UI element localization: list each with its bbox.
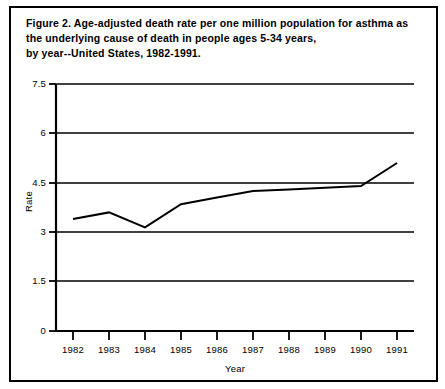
y-tick-label-1_5: 1.5 bbox=[14, 275, 46, 286]
gridlines bbox=[56, 84, 414, 331]
x-tick-label-1987: 1987 bbox=[233, 344, 273, 355]
y-axis-title: Rate bbox=[23, 172, 34, 232]
x-tick-label-1985: 1985 bbox=[161, 344, 201, 355]
y-tick-label-7_5: 7.5 bbox=[14, 78, 46, 89]
plot-area: 7.5 6 4.5 3 1.5 0 1982 1983 1984 1985 19… bbox=[0, 0, 445, 389]
x-axis-title: Year bbox=[56, 363, 414, 374]
x-tick-label-1986: 1986 bbox=[197, 344, 237, 355]
x-tick-label-1984: 1984 bbox=[125, 344, 165, 355]
x-tick-label-1991: 1991 bbox=[377, 344, 417, 355]
figure-container: Figure 2. Age-adjusted death rate per on… bbox=[0, 0, 445, 389]
x-tick-label-1988: 1988 bbox=[269, 344, 309, 355]
y-tick-label-0: 0 bbox=[14, 325, 46, 336]
y-tick-label-6: 6 bbox=[14, 127, 46, 138]
x-tick-label-1989: 1989 bbox=[305, 344, 345, 355]
data-series-line bbox=[73, 163, 397, 227]
x-tick-label-1990: 1990 bbox=[341, 344, 381, 355]
x-tick-label-1982: 1982 bbox=[53, 344, 93, 355]
x-tick-label-1983: 1983 bbox=[89, 344, 129, 355]
chart-canvas bbox=[0, 0, 445, 389]
x-axis-ticks bbox=[73, 331, 397, 340]
